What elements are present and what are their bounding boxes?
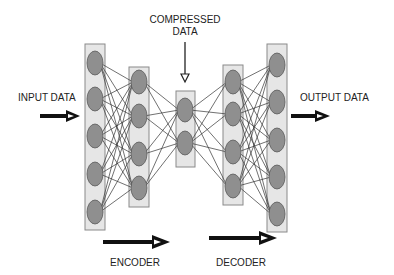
neuron-node	[269, 90, 285, 114]
neuron-node	[131, 142, 147, 166]
neuron-node	[131, 104, 147, 128]
neuron-node	[269, 53, 285, 77]
neuron-node	[225, 174, 241, 198]
neuron-node	[225, 102, 241, 126]
connection-edge	[190, 143, 227, 152]
output-arrow-icon	[291, 110, 330, 122]
decoder-arrow-icon	[209, 231, 277, 245]
compressed-data-label: COMPRESSED DATA	[145, 14, 225, 38]
compressed-label-line1: COMPRESSED	[145, 14, 225, 26]
connection-edge	[190, 82, 227, 143]
neuron-node	[269, 165, 285, 189]
encoder-arrow-icon	[103, 235, 170, 249]
neuron-node	[225, 140, 241, 164]
compressed-label-line2: DATA	[145, 26, 225, 38]
connection-edge	[190, 82, 227, 110]
neuron-node	[177, 131, 193, 155]
neuron-node	[225, 70, 241, 94]
compressed-arrow-icon	[181, 42, 189, 82]
neuron-node	[87, 124, 103, 148]
decoder-label: DECODER	[216, 257, 266, 268]
neuron-node	[269, 202, 285, 226]
neuron-node	[87, 200, 103, 224]
input-arrow-icon	[40, 110, 80, 122]
network-graphic	[0, 0, 394, 275]
autoencoder-diagram: COMPRESSED DATA INPUT DATA OUTPUT DATA E…	[0, 0, 394, 275]
connection-edge	[190, 110, 227, 152]
neuron-node	[87, 87, 103, 111]
neuron-node	[87, 51, 103, 75]
neuron-node	[131, 176, 147, 200]
neuron-node	[131, 70, 147, 94]
input-data-label: INPUT DATA	[18, 92, 76, 103]
connection-edge	[190, 143, 227, 186]
connection-edge	[190, 114, 227, 143]
connection-edge	[190, 110, 227, 186]
encoder-label: ENCODER	[110, 257, 160, 268]
neuron-node	[87, 162, 103, 186]
neuron-node	[177, 98, 193, 122]
output-data-label: OUTPUT DATA	[300, 92, 369, 103]
neuron-node	[269, 128, 285, 152]
